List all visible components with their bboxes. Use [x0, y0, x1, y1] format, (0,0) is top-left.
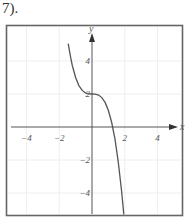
y-tick-label: −2	[79, 155, 90, 165]
x-tick-label: 4	[155, 133, 160, 143]
y-tick-label: −4	[79, 188, 90, 198]
x-axis-label: x	[179, 121, 185, 132]
x-tick-label: −4	[21, 133, 32, 143]
x-tick-label: −2	[54, 133, 65, 143]
y-tick-label: 4	[86, 56, 91, 66]
x-tick-label: 2	[123, 133, 128, 143]
plot-frame	[7, 26, 183, 216]
y-axis-label: y	[88, 23, 94, 34]
function-plot: −4−22442−2−4 x y	[0, 0, 186, 220]
